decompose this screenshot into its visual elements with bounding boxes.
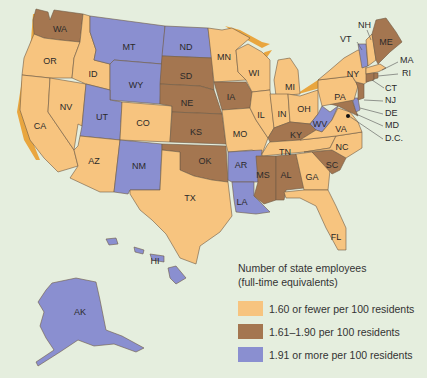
label-OK: OK [198,156,211,166]
label-AL: AL [280,170,291,180]
label-ID: ID [89,69,99,79]
state-RI[interactable] [374,73,378,79]
label-KS: KS [190,127,202,137]
label-CA: CA [34,121,47,131]
legend-swatch-low [238,301,263,316]
label-DC: D.C. [385,133,403,143]
label-RI: RI [402,68,411,78]
label-WI: WI [249,68,260,78]
label-NH: NH [358,20,371,30]
legend-swatch-high [238,347,263,362]
legend-swatch-mid [238,324,263,339]
label-MI: MI [285,82,295,92]
legend: Number of state employees (full-time equ… [238,261,427,368]
label-VT: VT [340,34,352,44]
label-NY: NY [347,69,360,79]
legend-item-mid: 1.61–1.90 per 100 residents [238,322,427,341]
label-VA: VA [335,124,346,134]
label-OR: OR [43,56,57,66]
state-MT[interactable] [90,16,165,64]
leader-RI [378,74,398,76]
legend-title-line1: Number of state employees [238,261,427,275]
label-SC: SC [326,160,339,170]
leader-CT [372,80,384,88]
label-NM: NM [132,161,146,171]
label-LA: LA [236,197,247,207]
legend-item-low: 1.60 or fewer per 100 residents [238,299,427,318]
label-WV: WV [313,119,328,129]
label-CT: CT [385,83,397,93]
legend-label-mid: 1.61–1.90 per 100 residents [269,326,400,338]
label-NE: NE [181,98,194,108]
label-MD: MD [385,120,399,130]
label-KY: KY [290,130,302,140]
leader-DE [360,108,383,114]
label-FL: FL [331,232,342,242]
label-TX: TX [184,193,196,203]
label-NJ: NJ [385,95,396,105]
leader-MA [382,62,398,70]
label-IA: IA [227,92,236,102]
label-IN: IN [278,109,287,119]
label-MO: MO [233,129,248,139]
label-AK: AK [74,307,86,317]
label-WY: WY [129,80,144,90]
label-MN: MN [217,52,231,62]
label-OH: OH [297,104,311,114]
legend-label-low: 1.60 or fewer per 100 residents [269,303,414,315]
label-MA: MA [400,55,414,65]
legend-title-line2: (full-time equivalents) [238,275,427,289]
legend-item-high: 1.91 or more per 100 residents [238,345,427,364]
label-IL: IL [257,110,265,120]
legend-title: Number of state employees (full-time equ… [238,261,427,289]
dc-marker-icon [346,114,350,118]
label-PA: PA [334,92,345,102]
label-UT: UT [96,112,108,122]
label-MT: MT [123,42,136,52]
leader-MD [356,114,383,126]
label-DE: DE [385,108,398,118]
state-AK[interactable] [36,278,144,366]
label-NV: NV [60,102,73,112]
leader-NJ [364,100,383,101]
label-TN: TN [279,147,291,157]
label-ND: ND [180,42,193,52]
label-HI: HI [151,256,160,266]
label-WA: WA [53,24,67,34]
label-NC: NC [336,142,349,152]
label-GA: GA [305,172,318,182]
state-NJ[interactable] [356,82,364,100]
label-ME: ME [379,37,393,47]
label-CO: CO [136,118,150,128]
label-AR: AR [235,160,248,170]
label-SD: SD [180,71,193,81]
legend-label-high: 1.91 or more per 100 residents [269,349,413,361]
label-AZ: AZ [88,156,100,166]
label-MS: MS [256,170,270,180]
